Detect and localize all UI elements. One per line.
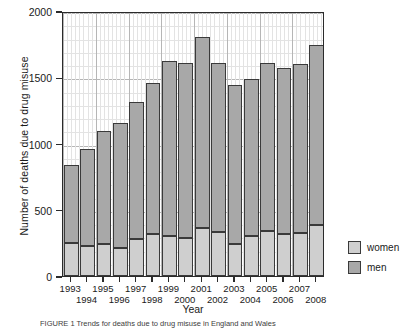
bar-segment-men[interactable] (162, 61, 177, 235)
x-axis-tick (250, 277, 251, 282)
bar-series-container (63, 13, 323, 276)
bar-group[interactable] (244, 12, 259, 276)
bar-group[interactable] (146, 12, 161, 276)
x-axis-title: Year (62, 303, 324, 315)
plot-area (62, 12, 324, 277)
bar-segment-women[interactable] (129, 239, 144, 276)
bar-group[interactable] (260, 12, 275, 276)
bar-group[interactable] (129, 12, 144, 276)
bar-segment-women[interactable] (162, 236, 177, 276)
x-axis-tick (151, 277, 152, 282)
bar-segment-men[interactable] (80, 149, 95, 245)
x-axis-tick-label: 1997 (119, 283, 153, 294)
bar-segment-women[interactable] (64, 243, 79, 276)
bar-segment-men[interactable] (293, 64, 308, 233)
bar-segment-women[interactable] (309, 225, 324, 276)
x-axis-tick (102, 277, 103, 282)
bar-segment-men[interactable] (64, 165, 79, 243)
bar-segment-men[interactable] (146, 83, 161, 234)
figure: Number of deaths due to drug misuse 0500… (0, 0, 408, 328)
x-axis-tick (315, 277, 316, 282)
x-axis-tick (299, 277, 300, 282)
bar-segment-women[interactable] (244, 236, 259, 276)
bar-group[interactable] (228, 12, 243, 276)
y-axis-tick-label: 2000 (2, 6, 52, 18)
x-axis-tick-label: 2003 (217, 283, 251, 294)
bar-segment-women[interactable] (277, 234, 292, 276)
x-axis-tick-label: 1993 (53, 283, 87, 294)
legend-label-men: men (367, 262, 386, 273)
bar-group[interactable] (162, 12, 177, 276)
x-axis-tick (135, 277, 136, 282)
bar-segment-men[interactable] (277, 68, 292, 234)
legend-item-men: men (348, 260, 408, 274)
bar-segment-women[interactable] (178, 238, 193, 276)
bar-segment-men[interactable] (178, 63, 193, 238)
bar-segment-men[interactable] (244, 79, 259, 237)
bar-segment-women[interactable] (80, 246, 95, 276)
bar-group[interactable] (277, 12, 292, 276)
x-axis-tick-label: 1999 (151, 283, 185, 294)
bar-segment-women[interactable] (211, 232, 226, 276)
y-axis-tick-label: 500 (2, 205, 52, 217)
bar-segment-men[interactable] (129, 102, 144, 238)
x-axis-tick (282, 277, 283, 282)
y-axis-tick-label: 1000 (2, 139, 52, 151)
x-axis-tick (233, 277, 234, 282)
x-axis-tick (70, 277, 71, 282)
bar-segment-women[interactable] (113, 248, 128, 276)
bar-segment-men[interactable] (309, 45, 324, 225)
bar-segment-women[interactable] (146, 234, 161, 276)
figure-caption: FIGURE 1 Trends for deaths due to drug m… (40, 319, 400, 328)
bar-group[interactable] (97, 12, 112, 276)
bar-group[interactable] (293, 12, 308, 276)
bar-segment-men[interactable] (113, 123, 128, 248)
x-axis-tick (119, 277, 120, 282)
legend-label-women: women (367, 242, 399, 253)
bar-segment-men[interactable] (260, 63, 275, 231)
x-axis-tick-label: 1995 (86, 283, 120, 294)
bar-segment-women[interactable] (293, 233, 308, 276)
legend-swatch-women-icon (348, 241, 361, 254)
x-axis-tick (168, 277, 169, 282)
y-axis-tick-label: 0 (2, 271, 52, 283)
chart-legend: women men (348, 240, 408, 280)
x-axis-tick (86, 277, 87, 282)
bar-segment-women[interactable] (260, 231, 275, 276)
bar-group[interactable] (178, 12, 193, 276)
bar-segment-men[interactable] (228, 85, 243, 244)
x-axis-tick (266, 277, 267, 282)
legend-item-women: women (348, 240, 408, 254)
x-axis-tick (201, 277, 202, 282)
bar-group[interactable] (309, 12, 324, 276)
bar-segment-women[interactable] (195, 228, 210, 276)
bar-segment-men[interactable] (195, 37, 210, 228)
bar-group[interactable] (113, 12, 128, 276)
bar-segment-men[interactable] (211, 63, 226, 231)
y-axis-tick-label: 1500 (2, 72, 52, 84)
bar-segment-men[interactable] (97, 131, 112, 244)
bar-group[interactable] (195, 12, 210, 276)
bar-segment-women[interactable] (228, 244, 243, 276)
bar-segment-women[interactable] (97, 244, 112, 276)
x-axis-tick-label: 2007 (282, 283, 316, 294)
x-axis-tick (217, 277, 218, 282)
bar-group[interactable] (64, 12, 79, 276)
bar-group[interactable] (211, 12, 226, 276)
x-axis-tick-label: 2001 (184, 283, 218, 294)
legend-swatch-men-icon (348, 261, 361, 274)
bar-group[interactable] (80, 12, 95, 276)
x-axis-tick-label: 2005 (250, 283, 284, 294)
x-axis-tick (184, 277, 185, 282)
